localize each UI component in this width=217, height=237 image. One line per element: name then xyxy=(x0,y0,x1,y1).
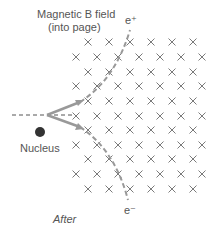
positron-label: e⁺ xyxy=(125,14,137,26)
field-x-mark-icon xyxy=(136,171,143,178)
field-x-mark-icon xyxy=(73,171,80,178)
field-x-mark-icon xyxy=(169,69,176,76)
field-x-mark-icon xyxy=(199,54,206,61)
field-x-mark-icon xyxy=(157,113,164,120)
field-x-mark-icon xyxy=(178,54,185,61)
field-x-mark-icon xyxy=(106,98,113,105)
field-x-mark-icon xyxy=(157,83,164,90)
field-x-mark-icon xyxy=(169,98,176,105)
field-x-mark-icon xyxy=(178,142,185,149)
field-x-mark-icon xyxy=(136,54,143,61)
electron-label: e⁻ xyxy=(124,204,136,216)
field-x-mark-icon xyxy=(115,113,122,120)
field-x-mark-icon xyxy=(178,83,185,90)
field-x-mark-icon xyxy=(148,69,155,76)
field-label-line1: Magnetic B field xyxy=(37,8,115,20)
field-x-mark-icon xyxy=(73,142,80,149)
field-x-mark-icon xyxy=(190,186,197,193)
field-x-mark-icon xyxy=(169,127,176,134)
field-x-mark-icon xyxy=(148,98,155,105)
field-x-mark-icon xyxy=(85,98,92,105)
field-x-mark-icon xyxy=(199,113,206,120)
field-x-mark-icon xyxy=(85,186,92,193)
field-x-mark-icon xyxy=(73,54,80,61)
field-x-mark-icon xyxy=(199,142,206,149)
field-x-mark-icon xyxy=(148,39,155,46)
field-x-mark-icon xyxy=(148,186,155,193)
field-x-mark-icon xyxy=(190,39,197,46)
field-x-mark-icon xyxy=(73,83,80,90)
field-x-mark-icon xyxy=(136,113,143,120)
field-x-mark-icon xyxy=(169,186,176,193)
field-x-mark-icon xyxy=(85,156,92,163)
field-x-mark-icon xyxy=(199,83,206,90)
field-x-mark-icon xyxy=(127,98,134,105)
field-label-line2: (into page) xyxy=(48,21,101,33)
electron-track xyxy=(80,127,128,200)
pair-production-diagram xyxy=(0,0,217,237)
field-x-mark-icon xyxy=(127,156,134,163)
field-x-mark-icon xyxy=(106,186,113,193)
field-x-mark-icon xyxy=(148,127,155,134)
field-x-mark-icon xyxy=(136,83,143,90)
field-x-mark-icon xyxy=(115,83,122,90)
field-x-mark-icon xyxy=(169,39,176,46)
field-x-mark-icon xyxy=(127,186,134,193)
field-x-mark-icon xyxy=(106,127,113,134)
field-x-mark-icon xyxy=(94,171,101,178)
field-x-mark-icon xyxy=(127,127,134,134)
nucleus-label: Nucleus xyxy=(20,142,60,154)
field-x-mark-icon xyxy=(157,171,164,178)
field-x-mark-icon xyxy=(190,98,197,105)
field-x-mark-icon xyxy=(127,39,134,46)
field-x-mark-icon xyxy=(85,69,92,76)
field-x-mark-icon xyxy=(190,127,197,134)
field-x-mark-icon xyxy=(178,113,185,120)
field-x-mark-icon xyxy=(73,113,80,120)
caption: After xyxy=(53,213,76,225)
field-x-mark-icon xyxy=(148,156,155,163)
field-x-mark-icon xyxy=(136,142,143,149)
field-x-mark-icon xyxy=(178,171,185,178)
field-x-mark-icon xyxy=(157,54,164,61)
field-x-mark-icon xyxy=(169,156,176,163)
field-x-mark-icon xyxy=(94,54,101,61)
field-x-mark-icon xyxy=(157,142,164,149)
field-x-mark-icon xyxy=(106,39,113,46)
magnetic-field-marks xyxy=(73,39,206,193)
field-x-mark-icon xyxy=(127,69,134,76)
positron-arrow xyxy=(47,102,80,115)
field-x-mark-icon xyxy=(190,69,197,76)
field-x-mark-icon xyxy=(94,113,101,120)
field-x-mark-icon xyxy=(85,39,92,46)
field-x-mark-icon xyxy=(199,171,206,178)
nucleus-dot xyxy=(35,127,45,137)
field-x-mark-icon xyxy=(115,142,122,149)
field-x-mark-icon xyxy=(190,156,197,163)
